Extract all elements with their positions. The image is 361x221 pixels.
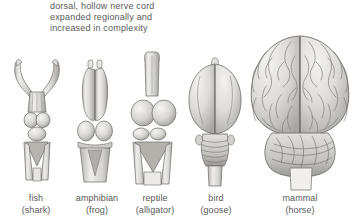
label-bird-species: (goose) bbox=[186, 205, 246, 217]
caption-line-3: increased in complexity bbox=[50, 23, 220, 34]
label-fish-common: fish bbox=[6, 193, 66, 205]
caption-line-1: dorsal, hollow nerve cord bbox=[50, 1, 220, 12]
label-bird-common: bird bbox=[186, 193, 246, 205]
brain-reptile-alligator bbox=[131, 52, 176, 185]
label-mammal-species: (horse) bbox=[268, 205, 332, 217]
brain-bird-goose bbox=[189, 58, 241, 186]
label-fish: fish (shark) bbox=[6, 193, 66, 216]
figure-caption: dorsal, hollow nerve cord expanded regio… bbox=[50, 1, 220, 35]
caption-line-2: expanded regionally and bbox=[50, 12, 220, 23]
label-mammal: mammal (horse) bbox=[268, 193, 332, 216]
label-fish-species: (shark) bbox=[6, 205, 66, 217]
label-reptile-species: (alligator) bbox=[118, 205, 192, 217]
label-bird: bird (goose) bbox=[186, 193, 246, 216]
label-reptile-common: reptile bbox=[118, 193, 192, 205]
label-reptile: reptile (alligator) bbox=[118, 193, 192, 216]
label-mammal-common: mammal bbox=[268, 193, 332, 205]
brain-mammal-horse bbox=[251, 36, 349, 190]
brain-fish-shark bbox=[15, 59, 60, 181]
brain-amphibian-frog bbox=[78, 60, 113, 182]
vertebrate-brain-evolution-figure: dorsal, hollow nerve cord expanded regio… bbox=[0, 0, 361, 221]
